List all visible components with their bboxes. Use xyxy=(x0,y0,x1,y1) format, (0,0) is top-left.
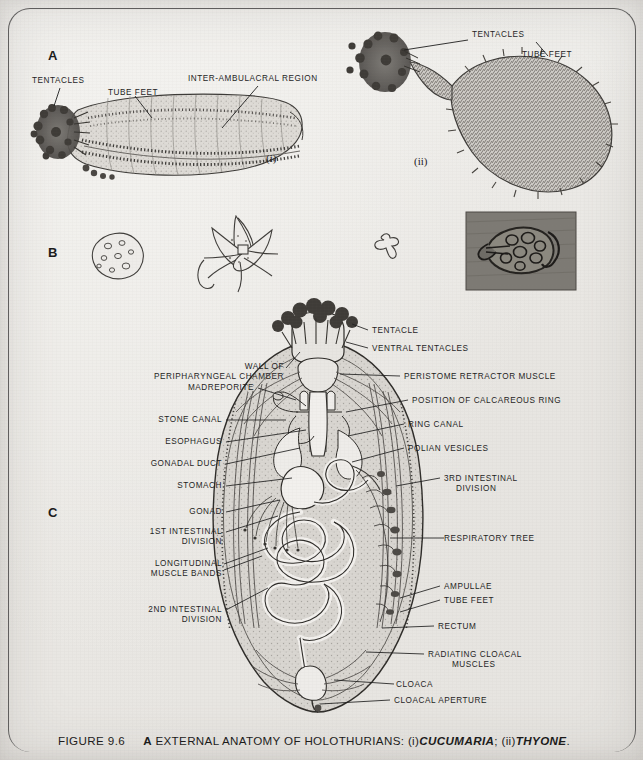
figure-page: A xyxy=(0,0,643,760)
page-border-frame xyxy=(8,8,636,752)
